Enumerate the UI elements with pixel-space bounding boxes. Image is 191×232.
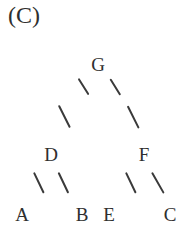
tree-node-f: F [139,145,150,164]
tree-node-d: D [44,145,58,164]
tree-edge-segment-d-b [58,172,69,194]
tree-edge-segment-f-c [151,172,164,194]
tree-node-a: A [15,205,29,224]
panel-label: (C) [8,3,40,27]
tree-edge-segment-f-e [125,172,136,194]
tree-edge-segment-g-d-lower [58,106,70,129]
tree-edge-segment-g-f-upper [109,79,120,96]
tree-edge-segment-g-f-lower [127,106,139,129]
tree-edge-segment-g-d-upper [77,79,88,96]
tree-edge-segment-d-a [33,172,44,194]
tree-node-b: B [76,205,89,224]
tree-node-c: C [164,205,177,224]
tree-diagram-figure: (C) GDFABEC [0,0,191,232]
tree-node-e: E [103,205,115,224]
tree-node-g: G [91,55,105,74]
